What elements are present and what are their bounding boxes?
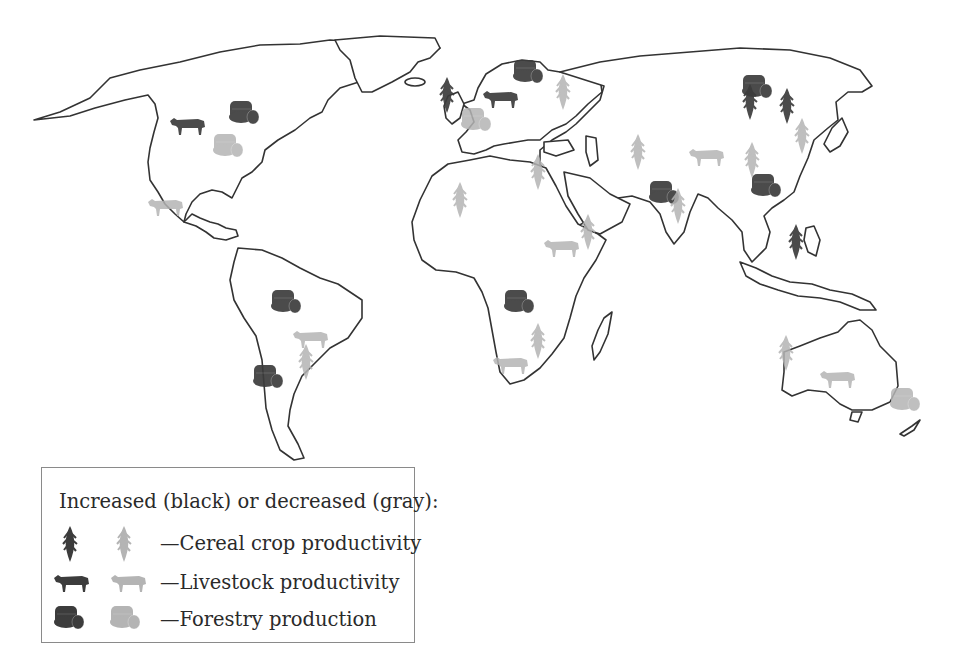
legend-title: Increased (black) or decreased (gray): (59, 490, 439, 513)
cereal-increased-icon (60, 524, 80, 564)
legend-row-cereal: —Cereal crop productivity (42, 526, 414, 562)
new-zealand (900, 420, 920, 436)
forestry-increased-icon (251, 363, 285, 391)
cereal-decreased-icon (528, 321, 548, 361)
cereal-decreased-icon (792, 116, 812, 156)
forestry-decreased-icon (459, 106, 493, 134)
cereal-decreased-icon (668, 186, 688, 226)
livestock-increased-icon (52, 571, 92, 593)
forestry-decreased-icon (211, 132, 245, 160)
legend-row-forestry: —Forestry production (42, 602, 414, 638)
cereal-decreased-icon (296, 342, 316, 382)
cereal-decreased-icon (776, 333, 796, 373)
philippines (804, 226, 820, 256)
forestry-increased-icon (52, 604, 86, 632)
central-america (184, 214, 238, 240)
livestock-decreased-icon (491, 353, 531, 375)
cereal-decreased-icon (628, 132, 648, 172)
forestry-increased-icon (749, 172, 783, 200)
livestock-decreased-icon (818, 367, 858, 389)
forestry-increased-icon (269, 288, 303, 316)
indonesia (740, 262, 876, 310)
legend-label-forestry: —Forestry production (160, 608, 377, 631)
cereal-increased-icon (740, 82, 760, 122)
cereal-decreased-icon (450, 180, 470, 220)
forestry-decreased-icon (888, 386, 922, 414)
cereal-decreased-icon (553, 72, 573, 112)
cereal-increased-icon (786, 222, 806, 262)
madagascar (592, 312, 612, 360)
livestock-decreased-icon (109, 571, 149, 593)
cereal-decreased-icon (578, 212, 598, 252)
livestock-decreased-icon (146, 195, 186, 217)
forestry-decreased-icon (108, 604, 142, 632)
forestry-increased-icon (511, 58, 545, 86)
tasmania (850, 412, 862, 422)
legend-row-livestock: —Livestock productivity (42, 565, 414, 601)
forestry-increased-icon (502, 288, 536, 316)
cereal-increased-icon (437, 75, 457, 115)
iceland (405, 78, 425, 86)
australia (782, 320, 898, 410)
forestry-increased-icon (227, 99, 261, 127)
legend: Increased (black) or decreased (gray): —… (41, 467, 415, 643)
cereal-decreased-icon (114, 524, 134, 564)
livestock-increased-icon (481, 87, 521, 109)
legend-label-livestock: —Livestock productivity (160, 571, 399, 594)
livestock-decreased-icon (542, 236, 582, 258)
cereal-decreased-icon (528, 152, 548, 192)
legend-label-cereal: —Cereal crop productivity (160, 532, 421, 555)
livestock-increased-icon (168, 114, 208, 136)
livestock-decreased-icon (687, 145, 727, 167)
